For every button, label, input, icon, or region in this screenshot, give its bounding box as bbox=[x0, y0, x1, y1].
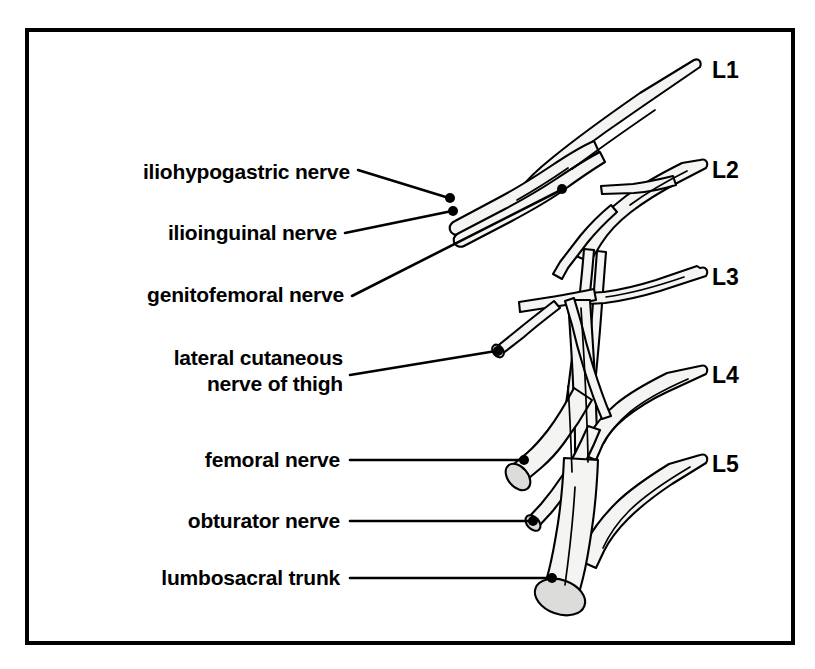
label-lateral-cutaneous-line-2: nerve of thigh bbox=[207, 372, 343, 395]
leader-genitofemoral bbox=[352, 190, 561, 296]
nerve-l2-ascending-branch bbox=[601, 176, 676, 194]
leader-dot-iliohypogastric bbox=[445, 193, 455, 203]
label-root-l5: L5 bbox=[712, 451, 739, 477]
label-root-l2: L2 bbox=[712, 157, 739, 183]
plexus-illustration: iliohypogastric nerve ilioinguinal nerve… bbox=[0, 0, 815, 669]
spinal-root-labels: L1 L2 L3 L4 L5 bbox=[712, 57, 739, 477]
label-genitofemoral-nerve: genitofemoral nerve bbox=[147, 283, 344, 306]
leader-dot-lumbosacral-trunk bbox=[547, 573, 557, 583]
leader-dot-obturator bbox=[528, 516, 538, 526]
lumbar-plexus-figure: iliohypogastric nerve ilioinguinal nerve… bbox=[0, 0, 815, 669]
label-root-l1: L1 bbox=[712, 57, 739, 83]
label-lateral-cutaneous-line-1: lateral cutaneous bbox=[174, 346, 343, 369]
leader-dot-femoral bbox=[519, 455, 529, 465]
label-femoral-nerve: femoral nerve bbox=[205, 448, 340, 471]
nerve-name-labels: iliohypogastric nerve ilioinguinal nerve… bbox=[143, 160, 350, 589]
leader-dot-genitofemoral bbox=[557, 184, 567, 194]
nerve-root-l2 bbox=[576, 160, 707, 262]
nerve-iliohypogastric bbox=[450, 141, 599, 235]
label-iliohypogastric-nerve: iliohypogastric nerve bbox=[143, 160, 350, 183]
leader-dot-ilioinguinal bbox=[448, 206, 458, 216]
label-ilioinguinal-nerve: ilioinguinal nerve bbox=[168, 221, 337, 244]
figure-border bbox=[27, 30, 793, 643]
leader-ilioinguinal bbox=[345, 211, 452, 233]
leader-iliohypogastric bbox=[358, 170, 449, 198]
label-lumbosacral-trunk: lumbosacral trunk bbox=[161, 566, 340, 589]
label-root-l3: L3 bbox=[712, 264, 739, 290]
leader-dot-lateral-cutaneous-thigh bbox=[493, 346, 503, 356]
label-obturator-nerve: obturator nerve bbox=[188, 509, 340, 532]
label-root-l4: L4 bbox=[712, 362, 739, 388]
leader-lateral-cutaneous-thigh bbox=[350, 351, 496, 375]
nerve-structures bbox=[450, 59, 707, 621]
